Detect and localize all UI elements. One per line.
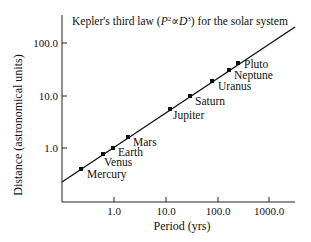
label-mars: Mars <box>133 136 157 148</box>
y-tick-label: 100.0 <box>33 37 58 49</box>
point-neptune <box>227 68 231 72</box>
x-tick-label: 1.0 <box>107 205 121 217</box>
y-tick-label: 1.0 <box>44 142 58 154</box>
point-uranus <box>210 79 214 83</box>
label-mercury: Mercury <box>87 168 127 181</box>
fit-line <box>62 27 295 182</box>
kepler-chart: 100.0 10.0 1.0 1.0 10.0 100.0 1000.0 Per… <box>0 0 311 242</box>
label-pluto: Pluto <box>244 58 269 70</box>
label-neptune: Neptune <box>234 69 273 82</box>
x-tick-label: 100.0 <box>206 205 231 217</box>
label-jupiter: Jupiter <box>173 109 204 122</box>
y-tick-label: 10.0 <box>39 90 59 102</box>
point-earth <box>111 146 115 150</box>
point-pluto <box>236 61 240 65</box>
x-axis-label: Period (yrs) <box>154 219 211 233</box>
point-mars <box>126 135 130 139</box>
x-ticks: 1.0 10.0 100.0 1000.0 <box>107 197 285 217</box>
point-labels: Mercury Venus Earth Mars Jupiter Saturn … <box>87 58 273 181</box>
label-saturn: Saturn <box>195 95 225 107</box>
point-mercury <box>79 167 83 171</box>
chart-title: Kepler's third law (P2∝D3) for the solar… <box>72 15 288 28</box>
point-saturn <box>188 94 192 98</box>
y-axis-label: Distance (astronomical units) <box>11 54 25 195</box>
label-uranus: Uranus <box>218 80 252 92</box>
point-jupiter <box>168 107 172 111</box>
x-tick-label: 1000.0 <box>254 205 285 217</box>
x-tick-label: 10.0 <box>156 205 176 217</box>
data-points <box>79 61 240 171</box>
